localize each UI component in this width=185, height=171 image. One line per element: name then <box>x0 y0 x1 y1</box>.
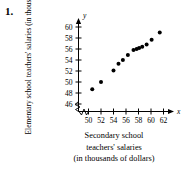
data-point <box>117 62 121 66</box>
x-axis-title-line-1: Secondary school <box>46 130 182 142</box>
y-tick-label: 54 <box>65 56 73 65</box>
data-point <box>158 31 162 35</box>
y-axis-symbol: y <box>82 11 87 20</box>
data-point <box>150 38 154 42</box>
x-tick-group: 50525456586062 <box>85 109 168 125</box>
y-tick-label: 48 <box>65 89 73 98</box>
x-tick-label: 56 <box>122 116 130 125</box>
data-point <box>140 45 144 49</box>
x-axis-arrow <box>168 109 174 114</box>
x-axis-title: Secondary school teachers' salaries (in … <box>46 130 182 165</box>
data-point <box>99 80 103 84</box>
x-tick-label: 60 <box>147 116 155 125</box>
data-point <box>126 53 130 57</box>
y-tick-label: 46 <box>65 100 73 109</box>
x-tick-label: 58 <box>135 116 143 125</box>
data-point <box>145 43 149 47</box>
y-tick-label: 60 <box>65 23 73 32</box>
data-point-group <box>90 31 162 92</box>
x-axis-symbol: x <box>176 107 181 116</box>
y-axis-break-icon <box>75 102 80 112</box>
y-tick-label: 50 <box>65 78 73 87</box>
x-tick-label: 54 <box>110 116 118 125</box>
y-tick-label: 52 <box>65 67 73 76</box>
x-axis-title-line-3: (in thousands of dollars) <box>46 153 182 165</box>
x-tick-label: 62 <box>160 116 168 125</box>
data-point <box>112 68 116 72</box>
y-tick-label: 58 <box>65 34 73 43</box>
x-tick-label: 52 <box>97 116 105 125</box>
y-tick-label: 56 <box>65 45 73 54</box>
y-axis-arrow <box>76 18 81 24</box>
x-tick-label: 50 <box>85 116 93 125</box>
data-point <box>121 58 125 62</box>
figure-container: 1. Elementary school teachers' salaries … <box>0 0 185 171</box>
axis-symbol-group: yx <box>82 11 181 116</box>
data-point <box>90 87 94 91</box>
y-tick-group: 4648505254565860 <box>65 23 82 109</box>
x-axis-title-line-2: teachers' salaries <box>46 142 182 154</box>
